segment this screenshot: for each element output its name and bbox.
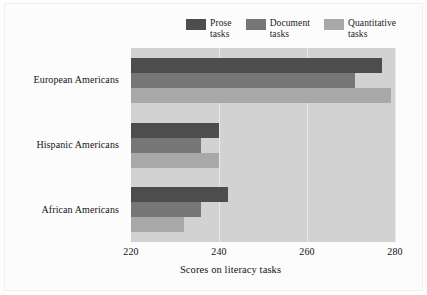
- x-tick-label: 280: [387, 246, 403, 257]
- legend-item: Document tasks: [246, 18, 310, 39]
- bar-chart-figure: Prose tasksDocument tasksQuantitative ta…: [0, 0, 427, 295]
- x-axis-title-text: Scores on literacy tasks: [180, 264, 281, 275]
- x-tick-label: 260: [299, 246, 315, 257]
- legend-item-label: Prose tasks: [210, 18, 232, 39]
- legend-item: Prose tasks: [186, 18, 232, 39]
- bar: [131, 58, 382, 73]
- bar: [131, 88, 391, 103]
- legend-item-label: Document tasks: [270, 18, 310, 39]
- legend-swatch-icon: [186, 19, 206, 30]
- category-axis-labels: European AmericansHispanic AmericansAfri…: [0, 48, 125, 242]
- legend-swatch-icon: [246, 19, 266, 30]
- legend-item: Quantitative tasks: [324, 18, 396, 39]
- x-tick-label: 220: [123, 246, 139, 257]
- bar: [131, 202, 201, 217]
- plot-area: [131, 48, 395, 242]
- bar: [131, 217, 184, 232]
- legend-swatch-icon: [324, 19, 344, 30]
- x-tick-label: 240: [211, 246, 227, 257]
- x-axis-title: Scores on literacy tasks: [0, 264, 427, 275]
- bar: [131, 123, 219, 138]
- bar: [131, 73, 355, 88]
- category-label: European Americans: [0, 74, 125, 85]
- category-label: Hispanic Americans: [0, 139, 125, 150]
- chart-legend: Prose tasksDocument tasksQuantitative ta…: [186, 18, 396, 39]
- bar: [131, 153, 219, 168]
- gridline: [395, 48, 396, 242]
- category-label: African Americans: [0, 204, 125, 215]
- bar: [131, 187, 228, 202]
- legend-item-label: Quantitative tasks: [348, 18, 396, 39]
- bar: [131, 138, 201, 153]
